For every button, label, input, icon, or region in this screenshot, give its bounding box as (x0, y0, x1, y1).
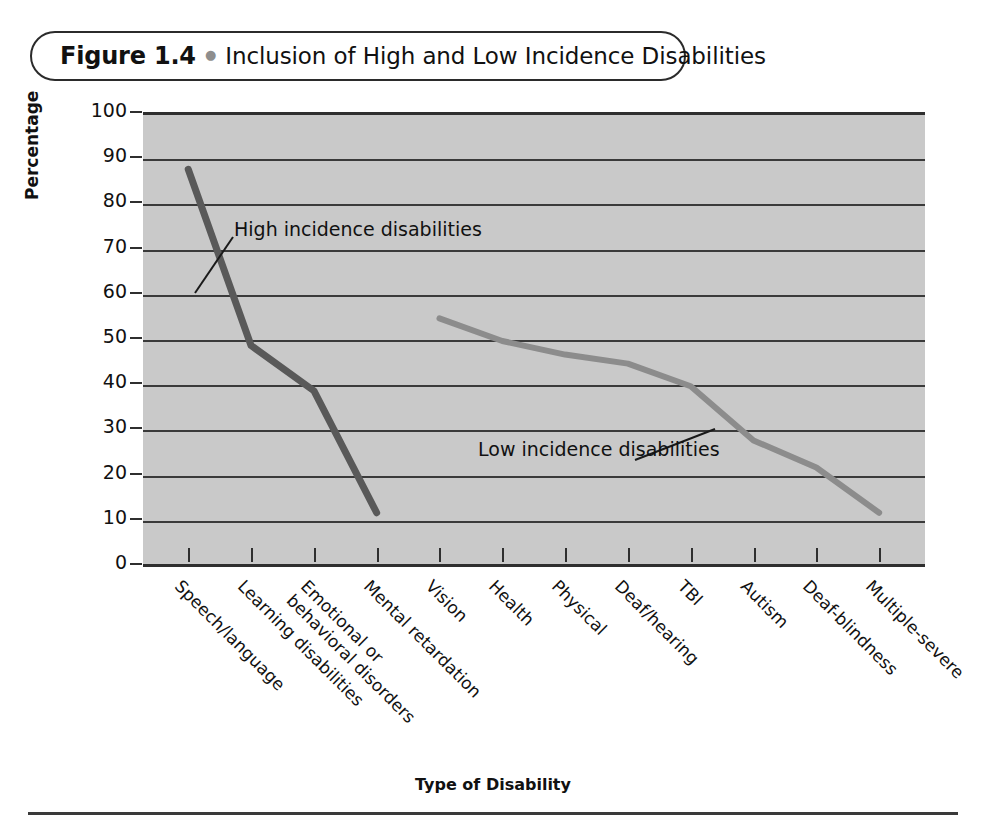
y-axis-tick (130, 473, 142, 475)
x-axis-tick (439, 548, 441, 562)
y-axis-tick-label: 30 (81, 417, 127, 436)
y-axis-tick (130, 247, 142, 249)
y-axis-tick-label: 90 (81, 146, 127, 165)
y-axis-tick-label: 70 (81, 237, 127, 256)
plot-area (143, 112, 925, 564)
x-axis-tick (314, 548, 316, 562)
annotation-low-incidence: Low incidence disabilities (478, 438, 720, 460)
y-axis-tick-label: 10 (81, 508, 127, 527)
x-axis-tick (188, 548, 190, 562)
x-axis-tick (565, 548, 567, 562)
x-axis-category-label: TBI (674, 576, 707, 609)
y-axis-tick (130, 518, 142, 520)
y-axis-tick (130, 337, 142, 339)
y-axis-tick (130, 156, 142, 158)
y-axis-tick (130, 382, 142, 384)
y-axis-tick (130, 111, 142, 113)
y-axis-tick-label: 100 (81, 101, 127, 120)
x-axis-ticks-group (143, 564, 925, 565)
x-axis-tick (879, 548, 881, 562)
chart-container: Percentage 1009080706050403020100 High i… (0, 0, 986, 829)
x-axis-category-label: Health (485, 576, 539, 630)
y-axis-tick-label: 80 (81, 191, 127, 210)
y-axis-tick (130, 292, 142, 294)
y-axis-tick-label: 50 (81, 327, 127, 346)
series-lines-svg (143, 115, 925, 567)
x-axis-title: Type of Disability (0, 775, 986, 794)
y-axis-tick-label: 60 (81, 282, 127, 301)
x-axis-category-label: Autism (736, 576, 792, 632)
x-axis-tick (377, 548, 379, 562)
x-axis-tick (816, 548, 818, 562)
annotation-high-incidence: High incidence disabilities (234, 218, 482, 240)
low-incidence-line (439, 318, 879, 512)
x-axis-category-label: Speech/language (171, 576, 289, 694)
x-axis-tick (502, 548, 504, 562)
y-axis-tick (130, 201, 142, 203)
y-axis-title: Percentage (22, 91, 42, 200)
x-axis-category-label: Physical (548, 576, 611, 639)
x-axis-tick (754, 548, 756, 562)
bottom-divider (28, 812, 958, 815)
y-axis-tick-label: 0 (81, 553, 127, 572)
x-axis-tick (628, 548, 630, 562)
x-axis-tick (251, 548, 253, 562)
y-axis-tick (130, 427, 142, 429)
x-axis-category-label: Vision (422, 576, 472, 626)
y-axis-tick-label: 20 (81, 463, 127, 482)
y-axis-tick (130, 563, 142, 565)
x-axis-category-labels: Speech/languageLearning disabilitiesEmot… (0, 572, 986, 762)
y-axis-tick-label: 40 (81, 372, 127, 391)
x-axis-tick (691, 548, 693, 562)
